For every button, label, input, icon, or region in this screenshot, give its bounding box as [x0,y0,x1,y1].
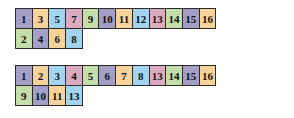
cell: 4 [65,65,83,86]
cell: 11 [48,85,66,106]
cell: 9 [15,85,33,106]
block-bottom-row-1: 1 2 3 4 5 6 7 8 13 14 15 16 [15,65,215,85]
block-top-row-2: 2 4 6 8 [15,28,215,48]
cell: 3 [32,8,50,29]
cell: 14 [165,8,183,29]
block-bottom-row-2: 9 10 11 13 [15,85,215,105]
cell: 1 [15,8,33,29]
cell: 6 [48,28,66,49]
cell: 7 [65,8,83,29]
cell: 13 [149,65,167,86]
cell: 2 [32,65,50,86]
cell: 16 [199,65,217,86]
cell: 8 [65,28,83,49]
cell: 14 [165,65,183,86]
cell: 15 [182,8,200,29]
cell: 11 [115,8,133,29]
cell: 6 [98,65,116,86]
cell: 13 [149,8,167,29]
cell: 16 [199,8,217,29]
cell: 12 [132,8,150,29]
cell: 9 [82,8,100,29]
cell: 15 [182,65,200,86]
cell: 13 [65,85,83,106]
block-top: 1 3 5 7 9 10 11 12 13 14 15 16 2 4 6 8 [15,8,215,48]
cell: 5 [82,65,100,86]
cell: 7 [115,65,133,86]
cell: 5 [48,8,66,29]
cell: 2 [15,28,33,49]
cell: 4 [32,28,50,49]
cell: 10 [32,85,50,106]
block-top-row-1: 1 3 5 7 9 10 11 12 13 14 15 16 [15,8,215,28]
cell: 1 [15,65,33,86]
cell: 10 [98,8,116,29]
cell: 8 [132,65,150,86]
block-bottom: 1 2 3 4 5 6 7 8 13 14 15 16 9 10 11 13 [15,65,215,105]
cell: 3 [48,65,66,86]
